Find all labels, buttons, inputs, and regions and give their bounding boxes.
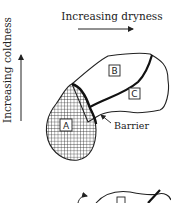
second-figure-arrow-icon <box>78 196 87 203</box>
region-b-label: B <box>111 66 117 76</box>
barrier-label: Barrier <box>114 120 149 131</box>
y-axis-label: Increasing coldness <box>1 17 13 123</box>
barrier-pointer-icon <box>101 115 111 123</box>
region-a-label: A <box>63 121 70 131</box>
second-figure-boundary <box>148 190 160 203</box>
second-figure-label-box <box>117 197 125 203</box>
x-axis-label: Increasing dryness <box>61 10 162 22</box>
diagram-canvas: Increasing dryness Increasing coldness B… <box>0 0 171 203</box>
region-c-label: C <box>131 89 137 99</box>
second-figure-outline <box>96 191 171 203</box>
